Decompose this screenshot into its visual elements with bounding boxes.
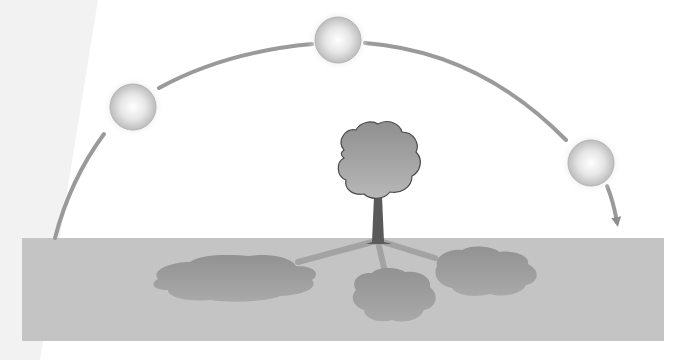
tree bbox=[338, 122, 420, 244]
ground-plane bbox=[22, 238, 664, 341]
sun-noon bbox=[307, 9, 369, 71]
sun-path-diagram bbox=[0, 0, 683, 360]
tree-crown bbox=[338, 122, 420, 199]
sun-morning bbox=[102, 76, 164, 138]
tree-trunk bbox=[366, 196, 392, 244]
sun-path-arc bbox=[55, 43, 617, 238]
sun-evening bbox=[560, 132, 622, 194]
